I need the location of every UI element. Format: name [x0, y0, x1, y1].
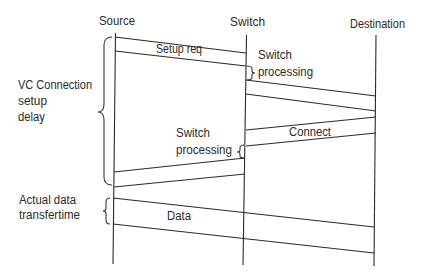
- switch-processing-brace-2: [237, 145, 244, 158]
- switch-lifeline: [243, 35, 247, 265]
- forward-connect-line-bottom: [114, 174, 245, 187]
- setup-req-label: Setup req: [156, 42, 202, 56]
- participant-destination-label: Destination: [350, 17, 405, 31]
- vc-setup-delay-line2: setup: [18, 94, 47, 108]
- vc-setup-delay-brace: [98, 37, 112, 185]
- vc-sequence-diagram: Source Switch Destination Setup req Swit…: [0, 0, 423, 278]
- forward-connect-line-top: [114, 158, 245, 172]
- source-lifeline: [113, 33, 116, 264]
- switch-processing-1-line2: processing: [258, 65, 313, 79]
- vc-setup-delay-line1: VC Connection: [18, 78, 92, 92]
- data-label: Data: [167, 209, 191, 223]
- data-transfer-line1: Actual data: [19, 193, 76, 207]
- switch-processing-1-line1: Switch: [258, 48, 292, 62]
- switch-processing-2-line2: processing: [176, 143, 232, 157]
- forward-setup-line-bottom: [246, 94, 376, 111]
- data-transfer-line2: transfertime: [19, 208, 80, 222]
- destination-lifeline: [374, 35, 376, 266]
- participant-source-label: Source: [99, 14, 135, 28]
- vc-setup-delay-line3: delay: [18, 110, 46, 124]
- connect-label: Connect: [289, 125, 331, 139]
- data-transfer-brace: [103, 198, 110, 224]
- switch-processing-2-line1: Switch: [176, 126, 210, 140]
- participant-switch-label: Switch: [230, 15, 265, 29]
- switch-processing-brace-1: [247, 66, 255, 80]
- forward-setup-line-top: [246, 80, 376, 96]
